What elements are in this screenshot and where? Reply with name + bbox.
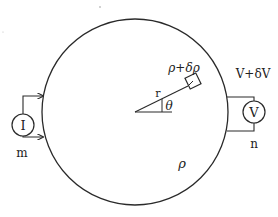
contact-label-m: m	[16, 146, 28, 160]
current-source: I	[12, 96, 43, 137]
angle-label: θ	[165, 99, 173, 113]
inclusion-resistivity-label: ρ+δρ	[167, 61, 199, 75]
diagram-canvas: I m V V+δV n r θ ρ+δρ ρ	[0, 0, 278, 217]
voltmeter-lead-top	[227, 97, 254, 101]
sample-resistivity-label: ρ	[177, 156, 186, 171]
contact-label-n: n	[250, 137, 258, 151]
voltmeter-lead-bottom	[227, 123, 254, 131]
speck	[2, 31, 3, 32]
current-lead-top	[23, 96, 43, 114]
voltmeter-symbol: V	[248, 105, 259, 120]
radius-label: r	[155, 87, 161, 100]
speck	[99, 6, 101, 8]
voltmeter: V	[227, 97, 265, 131]
voltage-label: V+δV	[235, 67, 271, 81]
current-source-symbol: I	[20, 118, 25, 133]
